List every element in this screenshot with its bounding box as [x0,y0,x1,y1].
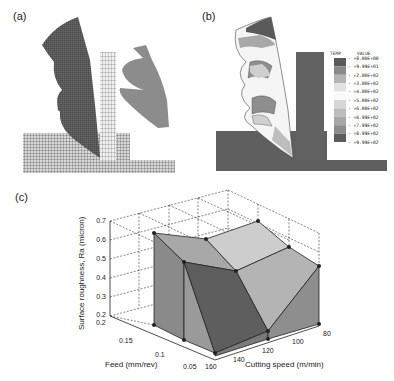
panel-a-mesh [23,17,175,173]
legend-value-label: - +2.00E+02 [348,73,379,78]
legend-swatch [334,134,346,142]
tool [296,52,324,160]
svg-text:0.7: 0.7 [96,217,106,224]
deformed-chip [120,45,169,128]
legend-swatches [334,58,346,142]
legend-value-label: - +6.00E+02 [348,106,379,111]
legend-swatch [334,58,346,66]
svg-text:0.05: 0.05 [183,363,197,370]
legend-value-label: - +9.99E+01 [348,64,379,69]
workpiece-base-mesh [23,160,175,173]
legend-labels: - +8.00E+00- +9.99E+01- +2.00E+02- +3.00… [348,56,379,145]
svg-text:0.6: 0.6 [96,236,106,243]
svg-text:140: 140 [233,356,245,363]
feed-axis-label: Feed (mm/rev) [105,360,158,369]
svg-text:0.4: 0.4 [96,274,106,281]
svg-text:0.15: 0.15 [119,337,133,344]
legend-swatch [334,100,346,108]
legend-swatch [334,75,346,83]
svg-text:0.3: 0.3 [96,293,106,300]
tool-mesh [100,52,116,160]
svg-text:100: 100 [292,338,304,345]
legend-value-label: - +7.99E+02 [348,123,379,128]
svg-text:120: 120 [262,347,274,354]
legend-value-label: - +3.00E+02 [348,81,379,86]
temperature-legend: TEMP VALUE - +8.00E+00- +9.99E+01- +2.00… [330,51,379,145]
legend-value-label: - +5.00E+02 [348,98,379,103]
legend-value-label: - +8.99E+02 [348,131,379,136]
z-tick-labels: 0.7 0.6 0.5 0.4 0.3 0.2 [96,217,106,318]
svg-text:0.2: 0.2 [96,311,106,318]
svg-text:0.2: 0.2 [96,319,106,326]
svg-text:0.5: 0.5 [96,255,106,262]
legend-swatch [334,117,346,125]
svg-text:0.1: 0.1 [155,351,165,358]
z-axis-label: Surface roughness, Ra (micron) [77,216,86,330]
legend-swatch [334,83,346,91]
legend-value-label: - +6.99E+02 [348,115,379,120]
legend-header-temp: TEMP [330,51,341,56]
legend-value-label: - +4.00E+02 [348,89,379,94]
legend-swatch [334,92,346,100]
surface-faces [154,221,319,356]
legend-swatch [334,125,346,133]
speed-axis-label: Cutting speed (m/min) [245,360,324,369]
legend-swatch [334,108,346,116]
figure-canvas: TEMP VALUE - +8.00E+00- +9.99E+01- +2.00… [0,0,394,381]
panel-c-chart: 0.7 0.6 0.5 0.4 0.3 0.2 0.2 0.15 0.1 0.0… [77,190,331,370]
svg-text:80: 80 [323,330,331,337]
legend-swatch [334,66,346,74]
legend-value-label: - +9.99E+02 [348,140,379,145]
workpiece-base [216,160,387,171]
legend-value-label: - +8.00E+00 [348,56,379,61]
svg-text:160: 160 [205,363,217,370]
